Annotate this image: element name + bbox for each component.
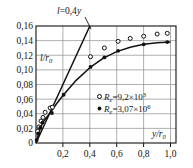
ytick-label: 0,16 xyxy=(16,21,33,31)
legend-marker-filled-circle-icon xyxy=(98,107,102,111)
equation-operator: =0,4 xyxy=(60,6,77,16)
x-axis-ticks xyxy=(63,143,171,147)
x-axis-label-sub: 0 xyxy=(163,133,167,140)
xtick-label: 0,4 xyxy=(84,149,96,159)
legend-marker-open-circle-icon xyxy=(98,95,102,99)
ytick-label: 0,08 xyxy=(16,80,33,90)
data-point-filled xyxy=(62,93,66,97)
data-point-filled xyxy=(116,49,120,53)
data-point-open xyxy=(128,36,132,40)
ytick-label: 0,04 xyxy=(16,109,33,119)
ytick-label: 0,06 xyxy=(16,95,33,105)
x-axis-label-text: y/r xyxy=(151,129,163,139)
legend-1-mid: =9,2×10 xyxy=(112,92,143,102)
legend-2-exp: 6 xyxy=(147,103,151,110)
ytick-label: 0,12 xyxy=(16,51,33,61)
data-point-open xyxy=(102,46,106,50)
data-point-filled xyxy=(89,65,93,69)
equation-y: y xyxy=(76,6,82,16)
y-axis-tick-labels: 0,16 0,14 0,12 0,10 0,08 0,06 0,04 0,02 … xyxy=(16,21,33,148)
y-axis-label-sub: 0 xyxy=(49,57,53,64)
chart-legend: Re=9,2×103 Re=3,07×106 xyxy=(98,91,152,115)
data-point-open xyxy=(142,34,146,38)
data-point-filled xyxy=(165,40,169,44)
y-axis-label: l/r0 xyxy=(40,53,53,64)
xtick-label: 0,6 xyxy=(111,149,123,159)
data-point-filled xyxy=(50,111,54,115)
annotation-leader-line xyxy=(85,17,91,29)
svg-text:l/r0: l/r0 xyxy=(40,53,53,64)
svg-text:y/r0: y/r0 xyxy=(151,129,167,140)
data-point-open xyxy=(50,105,54,109)
data-point-open xyxy=(116,39,120,43)
data-point-filled xyxy=(35,138,39,142)
data-point-filled xyxy=(142,42,146,46)
ytick-label: 0,14 xyxy=(16,36,33,46)
ytick-label: 0 xyxy=(28,138,33,148)
xtick-label: 1,0 xyxy=(165,149,177,159)
data-point-open xyxy=(41,115,45,119)
data-point-open xyxy=(155,32,159,36)
data-point-filled xyxy=(38,126,42,130)
data-point-filled xyxy=(102,56,106,60)
horizontal-gridlines xyxy=(36,41,176,129)
x-axis-label: y/r0 xyxy=(151,129,167,140)
xtick-label: 0,8 xyxy=(138,149,150,159)
chart-figure: 0,16 0,14 0,12 0,10 0,08 0,06 0,04 0,02 … xyxy=(0,0,193,168)
data-point-open xyxy=(165,31,169,35)
y-axis-label-text: l/r xyxy=(40,53,49,63)
xtick-label: 0,2 xyxy=(57,149,69,159)
data-point-open xyxy=(89,55,93,59)
legend-2-mid: =3,07×10 xyxy=(112,104,147,114)
data-point-filled xyxy=(41,121,45,125)
data-point-open xyxy=(43,110,47,114)
legend-entry-2-text: Re=3,07×106 xyxy=(103,103,151,115)
x-axis-tick-labels: 0,2 0,4 0,6 0,8 1,0 xyxy=(57,149,177,159)
svg-text:l=0,4y: l=0,4y xyxy=(57,6,82,16)
series-re-92e3-points xyxy=(36,31,170,133)
data-point-filled xyxy=(37,132,41,136)
chart-svg: 0,16 0,14 0,12 0,10 0,08 0,06 0,04 0,02 … xyxy=(0,0,193,168)
legend-entry-1-text: Re=9,2×103 xyxy=(103,91,146,103)
legend-1-exp: 3 xyxy=(143,91,146,98)
ytick-label: 0,10 xyxy=(16,65,33,75)
ytick-label: 0,02 xyxy=(16,124,33,134)
